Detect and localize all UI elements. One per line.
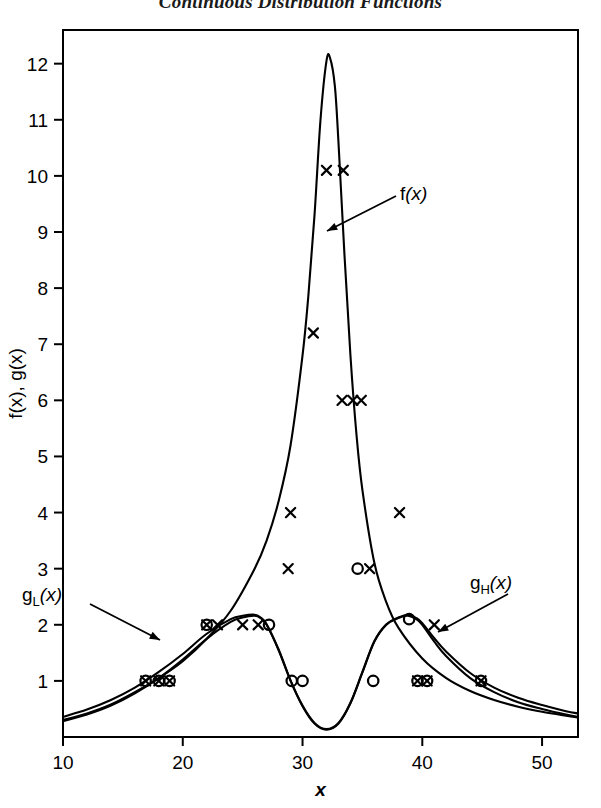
marker-x xyxy=(286,508,295,517)
marker-o xyxy=(368,676,378,686)
curve-ghx xyxy=(63,615,578,730)
arrow-gl xyxy=(90,604,160,640)
curve-glx xyxy=(63,616,578,730)
y-tick-label: 10 xyxy=(27,166,48,187)
y-tick-label: 9 xyxy=(37,222,48,243)
x-tick-label: 10 xyxy=(52,752,73,773)
annotation-fx: f(x) xyxy=(400,183,427,204)
y-tick-label: 8 xyxy=(37,278,48,299)
x-tick-labels: 1020304050 xyxy=(52,752,552,773)
arrow-gh xyxy=(438,594,508,632)
y-tick-label: 12 xyxy=(27,54,48,75)
figure-page: Continuous Distribution Functions 102030… xyxy=(0,0,601,808)
marker-x xyxy=(365,564,374,573)
marker-x xyxy=(322,166,331,175)
y-tick-label: 1 xyxy=(37,671,48,692)
x-tick-label: 50 xyxy=(531,752,552,773)
y-tick-label: 2 xyxy=(37,615,48,636)
marker-o xyxy=(352,563,362,573)
annotation-gh: gH(x) xyxy=(470,572,512,597)
annotation-gl: gL(x) xyxy=(22,584,62,609)
y-tick-label: 4 xyxy=(37,503,48,524)
plot-frame xyxy=(63,30,578,737)
marker-x xyxy=(357,396,366,405)
x-tick-label: 20 xyxy=(172,752,193,773)
arrow-fx xyxy=(327,196,396,231)
y-tick-label: 6 xyxy=(37,390,48,411)
curve-fx xyxy=(63,54,578,720)
marker-x xyxy=(430,620,439,629)
axis-ticks xyxy=(54,64,542,746)
chart-svg: 1020304050 123456789101112 f(x)gL(x)gH(x… xyxy=(0,0,601,808)
x-axis-title: x xyxy=(314,779,327,800)
curve-annotations: f(x)gL(x)gH(x) xyxy=(22,183,512,640)
y-tick-label: 5 xyxy=(37,446,48,467)
y-axis-title: f(x), g(x) xyxy=(5,348,26,419)
marker-x xyxy=(337,396,346,405)
x-tick-label: 30 xyxy=(292,752,313,773)
marker-xo xyxy=(140,676,150,686)
marker-xo xyxy=(164,676,174,686)
marker-xo xyxy=(202,620,212,630)
marker-x xyxy=(284,564,293,573)
axis-titles: xf(x), g(x) xyxy=(5,348,327,800)
marker-o xyxy=(297,676,307,686)
plot-area: 1020304050 123456789101112 f(x)gL(x)gH(x… xyxy=(0,0,601,808)
curve-series xyxy=(63,54,578,730)
y-tick-label: 11 xyxy=(28,110,48,131)
marker-x xyxy=(309,328,318,337)
marker-x xyxy=(254,620,263,629)
marker-x xyxy=(238,620,247,629)
marker-x xyxy=(395,508,404,517)
x-tick-label: 40 xyxy=(412,752,433,773)
y-tick-label: 7 xyxy=(37,334,48,355)
y-tick-label: 3 xyxy=(37,559,48,580)
plot-border xyxy=(63,30,578,737)
